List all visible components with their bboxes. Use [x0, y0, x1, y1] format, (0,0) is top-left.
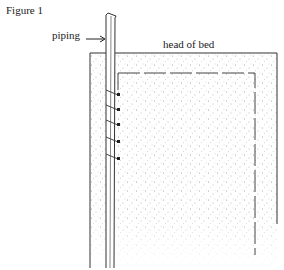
piping-arrow-icon — [86, 36, 105, 42]
bed-diagram — [0, 0, 284, 270]
mattress — [90, 53, 284, 270]
